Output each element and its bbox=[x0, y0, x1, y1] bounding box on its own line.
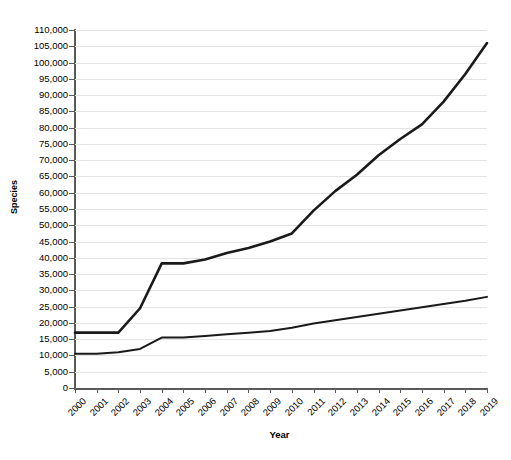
y-axis-tick-label: 90,000 bbox=[8, 90, 68, 100]
x-axis-tick-mark bbox=[465, 389, 466, 393]
y-axis-tick-mark bbox=[69, 274, 74, 275]
y-axis-tick-mark bbox=[69, 258, 74, 259]
x-axis-tick-mark bbox=[379, 389, 380, 393]
y-axis-tick-label: 85,000 bbox=[8, 106, 68, 116]
x-axis-tick-mark bbox=[227, 389, 228, 393]
y-axis-tick-label: 100,000 bbox=[8, 58, 68, 68]
x-axis-tick-mark bbox=[422, 389, 423, 393]
y-axis-tick-label: 55,000 bbox=[8, 204, 68, 214]
x-axis-tick-mark bbox=[357, 389, 358, 393]
y-axis-tick-mark bbox=[69, 372, 74, 373]
x-axis-tick-mark bbox=[335, 389, 336, 393]
y-axis-tick-label: 110,000 bbox=[8, 25, 68, 35]
y-axis-tick-mark bbox=[69, 160, 74, 161]
y-axis-tick-label: 15,000 bbox=[8, 334, 68, 344]
y-axis-tick-mark bbox=[69, 79, 74, 80]
series-container bbox=[75, 30, 487, 388]
x-axis-tick-mark bbox=[292, 389, 293, 393]
y-axis-tick-label: 5,000 bbox=[8, 367, 68, 377]
x-axis-tick-mark bbox=[400, 389, 401, 393]
y-axis-tick-mark bbox=[69, 144, 74, 145]
y-axis-tick-mark bbox=[69, 209, 74, 210]
y-axis-tick-mark bbox=[69, 323, 74, 324]
x-axis-title: Year bbox=[0, 429, 511, 440]
x-axis-tick-mark bbox=[248, 389, 249, 393]
y-axis-tick-mark bbox=[69, 290, 74, 291]
x-axis-tick-mark bbox=[162, 389, 163, 393]
x-axis-tick-mark bbox=[183, 389, 184, 393]
y-axis-tick-mark bbox=[69, 355, 74, 356]
x-axis-tick-mark bbox=[205, 389, 206, 393]
y-axis-tick-label: 0 bbox=[8, 383, 68, 393]
y-axis-tick-mark bbox=[69, 63, 74, 64]
y-axis-tick-label: 30,000 bbox=[8, 285, 68, 295]
x-axis-line bbox=[74, 388, 488, 390]
plot-area bbox=[75, 30, 487, 388]
y-axis-tick-mark bbox=[69, 111, 74, 112]
y-axis-tick-mark bbox=[69, 307, 74, 308]
y-axis-tick-label: 95,000 bbox=[8, 74, 68, 84]
y-axis-tick-mark bbox=[69, 339, 74, 340]
y-axis-tick-label: 80,000 bbox=[8, 123, 68, 133]
x-axis-tick-mark bbox=[487, 389, 488, 393]
series-line-upper bbox=[75, 43, 487, 333]
y-axis-tick-mark bbox=[69, 95, 74, 96]
y-axis-tick-labels: 05,00010,00015,00020,00025,00030,00035,0… bbox=[8, 0, 68, 460]
x-axis-tick-mark bbox=[270, 389, 271, 393]
y-axis-tick-label: 65,000 bbox=[8, 171, 68, 181]
y-axis-tick-mark bbox=[69, 193, 74, 194]
y-axis-tick-label: 105,000 bbox=[8, 41, 68, 51]
series-line-lower bbox=[75, 297, 487, 354]
x-axis-tick-mark bbox=[140, 389, 141, 393]
x-axis-tick-mark bbox=[444, 389, 445, 393]
x-axis-tick-mark bbox=[75, 389, 76, 393]
y-axis-tick-mark bbox=[69, 242, 74, 243]
y-axis-tick-mark bbox=[69, 225, 74, 226]
y-axis-tick-label: 75,000 bbox=[8, 139, 68, 149]
y-axis-tick-label: 10,000 bbox=[8, 350, 68, 360]
y-axis-tick-mark bbox=[69, 46, 74, 47]
x-axis-tick-mark bbox=[118, 389, 119, 393]
y-axis-tick-mark bbox=[69, 30, 74, 31]
y-axis-tick-label: 70,000 bbox=[8, 155, 68, 165]
y-axis-tick-mark bbox=[69, 388, 74, 389]
x-axis-tick-mark bbox=[314, 389, 315, 393]
y-axis-tick-label: 45,000 bbox=[8, 237, 68, 247]
y-axis-tick-label: 35,000 bbox=[8, 269, 68, 279]
y-axis-tick-label: 20,000 bbox=[8, 318, 68, 328]
y-axis-tick-label: 60,000 bbox=[8, 188, 68, 198]
y-axis-tick-label: 50,000 bbox=[8, 220, 68, 230]
y-axis-tick-mark bbox=[69, 128, 74, 129]
y-axis-tick-label: 40,000 bbox=[8, 253, 68, 263]
y-axis-tick-label: 25,000 bbox=[8, 302, 68, 312]
line-chart: Species 05,00010,00015,00020,00025,00030… bbox=[0, 0, 511, 460]
y-axis-tick-mark bbox=[69, 176, 74, 177]
x-axis-tick-mark bbox=[97, 389, 98, 393]
